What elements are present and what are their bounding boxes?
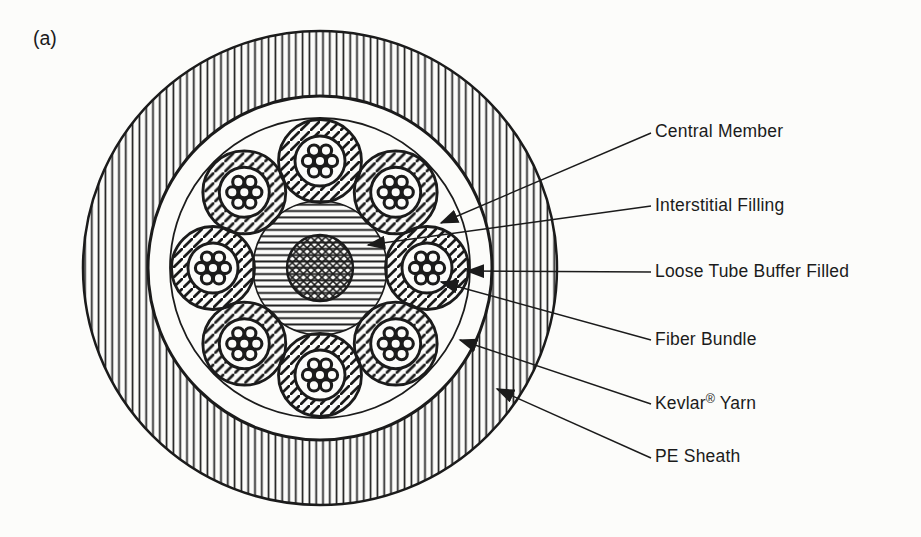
loose-tube-ne <box>354 151 437 234</box>
label-kevlar-word: Kevlar <box>655 393 706 413</box>
cable-body <box>83 31 557 505</box>
leader-pe-sheath <box>497 389 651 458</box>
loose-tube-se <box>354 302 437 385</box>
label-interstitial-filling: Interstitial Filling <box>655 195 784 215</box>
figure-page: Central Member Interstitial Filling Loos… <box>0 0 921 537</box>
labels: Central Member Interstitial Filling Loos… <box>655 121 849 466</box>
label-pe-sheath: PE Sheath <box>655 446 740 466</box>
loose-tube-sw <box>203 302 286 385</box>
label-yarn-word: Yarn <box>720 393 756 413</box>
cable-cross-section-figure: Central Member Interstitial Filling Loos… <box>0 0 921 537</box>
loose-tube-n <box>279 120 362 203</box>
panel-label: (a) <box>33 27 57 49</box>
central-member-rod <box>287 235 353 301</box>
loose-tube-nw <box>203 151 286 234</box>
label-kevlar-yarn: Kevlar®Yarn <box>655 392 756 414</box>
loose-tube-w <box>172 227 255 310</box>
label-central-member: Central Member <box>655 121 783 141</box>
loose-tube-e <box>386 227 469 310</box>
label-loose-tube: Loose Tube Buffer Filled <box>655 261 849 281</box>
loose-tube-s <box>279 334 362 417</box>
registered-mark: ® <box>706 392 716 406</box>
label-fiber-bundle: Fiber Bundle <box>655 329 757 349</box>
